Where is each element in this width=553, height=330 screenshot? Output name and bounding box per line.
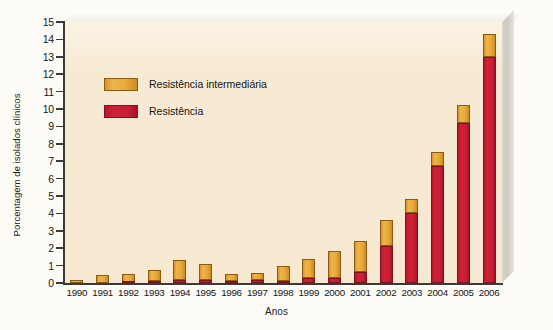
bar-segment-resistance: [457, 123, 470, 283]
bar-2006: [483, 34, 496, 283]
legend-item-intermediate: Resistência intermediária: [104, 74, 267, 94]
y-tick-label: 3: [48, 225, 54, 237]
x-tick-label: 1998: [273, 287, 294, 298]
y-tick-label: 9: [48, 120, 54, 132]
bar-segment-intermediate: [225, 274, 238, 281]
x-tick-label: 2000: [324, 287, 345, 298]
x-tick-label: 1997: [247, 287, 268, 298]
bar-1995: [199, 264, 212, 283]
bar-segment-resistance: [354, 272, 367, 283]
bar-1991: [96, 275, 109, 283]
bar-segment-intermediate: [380, 220, 393, 246]
legend-label-resistance: Resistência: [149, 105, 203, 117]
x-tick-label: 2004: [427, 287, 448, 298]
bar-segment-intermediate: [431, 152, 444, 166]
y-tick-mark: [56, 247, 63, 249]
y-tick-mark: [56, 160, 63, 162]
y-axis-line: [63, 21, 65, 284]
y-tick-mark: [56, 91, 63, 93]
y-tick-label: 7: [48, 155, 54, 167]
bar-2005: [457, 105, 470, 283]
bar-segment-intermediate: [148, 270, 161, 281]
y-tick-mark: [56, 108, 63, 110]
plot-3d-top-edge: [64, 10, 526, 22]
bar-1992: [122, 274, 135, 283]
x-tick-label: 1994: [170, 287, 191, 298]
y-tick-mark: [56, 178, 63, 180]
bar-segment-intermediate: [483, 34, 496, 57]
y-tick-label: 13: [43, 51, 54, 63]
y-tick-mark: [56, 265, 63, 267]
bar-segment-intermediate: [277, 266, 290, 282]
legend-label-intermediate: Resistência intermediária: [149, 78, 267, 90]
x-tick-label: 2006: [479, 287, 500, 298]
bar-1994: [173, 260, 186, 283]
y-tick-label: 15: [43, 16, 54, 28]
y-tick-label: 2: [48, 242, 54, 254]
x-tick-label: 2005: [453, 287, 474, 298]
y-tick-mark: [56, 73, 63, 75]
bar-segment-resistance: [405, 213, 418, 283]
resistance-swatch: [104, 105, 138, 118]
y-tick-mark: [56, 39, 63, 41]
y-tick-label: 5: [48, 190, 54, 202]
bar-1996: [225, 274, 238, 283]
bar-segment-intermediate: [354, 241, 367, 271]
x-tick-label: 1991: [92, 287, 113, 298]
y-tick-mark: [56, 195, 63, 197]
legend-item-resistance: Resistência: [104, 101, 267, 121]
y-axis-title: Porcentagem de isolados clínicos: [11, 55, 22, 275]
y-tick-mark: [56, 56, 63, 58]
bar-segment-resistance: [483, 57, 496, 283]
y-tick-mark: [56, 126, 63, 128]
bar-2003: [405, 199, 418, 283]
bar-segment-intermediate: [328, 251, 341, 278]
bar-1998: [277, 266, 290, 283]
bar-2004: [431, 152, 444, 283]
y-tick-label: 4: [48, 207, 54, 219]
x-tick-label: 1995: [195, 287, 216, 298]
bar-segment-intermediate: [199, 264, 212, 279]
y-tick-label: 12: [43, 68, 54, 80]
bar-2000: [328, 251, 341, 283]
bar-segment-resistance: [380, 246, 393, 283]
x-tick-label: 1996: [221, 287, 242, 298]
chart-legend: Resistência intermediária Resistência: [104, 74, 267, 128]
bar-segment-intermediate: [173, 260, 186, 281]
bar-segment-intermediate: [251, 273, 264, 281]
x-tick-label: 1990: [67, 287, 88, 298]
y-tick-mark: [56, 143, 63, 145]
bar-segment-resistance: [431, 166, 444, 283]
x-tick-label: 2003: [402, 287, 423, 298]
y-tick-mark: [56, 230, 63, 232]
bar-2001: [354, 241, 367, 283]
x-tick-label: 2002: [376, 287, 397, 298]
plot-3d-right-edge: [502, 10, 514, 283]
y-tick-mark: [56, 213, 63, 215]
bar-chart-figure: Porcentagem de isolados clínicos 0123456…: [0, 0, 553, 330]
x-tick-label: 1993: [144, 287, 165, 298]
x-axis-line: [63, 283, 503, 285]
y-tick-mark: [56, 21, 63, 23]
y-tick-label: 11: [44, 86, 55, 98]
bar-segment-intermediate: [96, 275, 109, 283]
bar-segment-intermediate: [405, 199, 418, 214]
bar-1999: [302, 259, 315, 283]
y-tick-label: 1: [48, 260, 54, 272]
y-tick-mark: [56, 282, 63, 284]
x-tick-label: 2001: [350, 287, 371, 298]
y-tick-label: 6: [48, 173, 54, 185]
y-tick-label: 0: [48, 277, 54, 289]
bar-1997: [251, 273, 264, 283]
intermediate-resistance-swatch: [104, 78, 138, 91]
y-tick-label: 14: [43, 33, 54, 45]
bar-segment-intermediate: [457, 105, 470, 123]
y-tick-label: 8: [48, 138, 54, 150]
x-tick-label: 1992: [118, 287, 139, 298]
bar-1993: [148, 270, 161, 283]
y-tick-label: 10: [43, 103, 54, 115]
x-tick-label: 1999: [298, 287, 319, 298]
x-axis-title: Anos: [0, 306, 553, 317]
bar-segment-intermediate: [302, 259, 315, 278]
bar-2002: [380, 220, 393, 283]
